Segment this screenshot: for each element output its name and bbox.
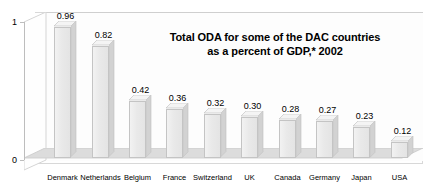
bar-value-label: 0.28: [273, 104, 308, 114]
bar-front-face: [353, 127, 370, 158]
bar-side-face: [183, 103, 189, 158]
bar-value-label: 0.30: [235, 101, 270, 111]
bar-side-face: [258, 111, 264, 158]
bar-switzerland[interactable]: [204, 114, 221, 158]
bar-value-label: 0.12: [385, 126, 420, 136]
bar-front-face: [279, 120, 296, 158]
bar-value-label: 0.82: [86, 30, 121, 40]
bar-side-face: [146, 95, 152, 158]
bar-side-face: [296, 114, 302, 158]
bar-top-face: [92, 40, 115, 46]
bar-value-label: 0.42: [123, 85, 158, 95]
bar-top-face: [129, 95, 152, 101]
bar-front-face: [316, 121, 333, 158]
bar-uk[interactable]: [241, 117, 258, 158]
bar-top-face: [391, 136, 414, 142]
bar-germany[interactable]: [316, 121, 333, 158]
bar-top-face: [279, 114, 302, 120]
bars-layer: 0.96Denmark0.82Netherlands0.42Belgium0.3…: [0, 0, 426, 193]
bar-top-face: [166, 103, 189, 109]
bar-front-face: [391, 142, 408, 158]
bar-value-label: 0.36: [160, 93, 195, 103]
bar-value-label: 0.32: [198, 98, 233, 108]
bar-denmark[interactable]: [54, 27, 71, 158]
bar-front-face: [204, 114, 221, 158]
bar-value-label: 0.96: [48, 11, 83, 21]
bar-value-label: 0.27: [310, 105, 345, 115]
bar-front-face: [92, 46, 109, 158]
bar-value-label: 0.23: [347, 111, 382, 121]
bar-front-face: [166, 109, 183, 158]
bar-japan[interactable]: [353, 127, 370, 158]
bar-top-face: [54, 21, 77, 27]
chart-container: 1 0 Total ODA for some of the DAC countr…: [0, 0, 426, 193]
bar-top-face: [316, 115, 339, 121]
bar-side-face: [109, 40, 115, 158]
bar-side-face: [221, 108, 227, 158]
bar-canada[interactable]: [279, 120, 296, 158]
bar-front-face: [129, 101, 146, 158]
bar-top-face: [353, 121, 376, 127]
bar-front-face: [54, 27, 71, 158]
bar-front-face: [241, 117, 258, 158]
bar-france[interactable]: [166, 109, 183, 158]
bar-usa[interactable]: [391, 142, 408, 158]
x-axis-label-usa: USA: [377, 173, 422, 182]
bar-side-face: [333, 115, 339, 158]
bar-belgium[interactable]: [129, 101, 146, 158]
bar-netherlands[interactable]: [92, 46, 109, 158]
bar-top-face: [241, 111, 264, 117]
bar-side-face: [71, 21, 77, 158]
bar-top-face: [204, 108, 227, 114]
